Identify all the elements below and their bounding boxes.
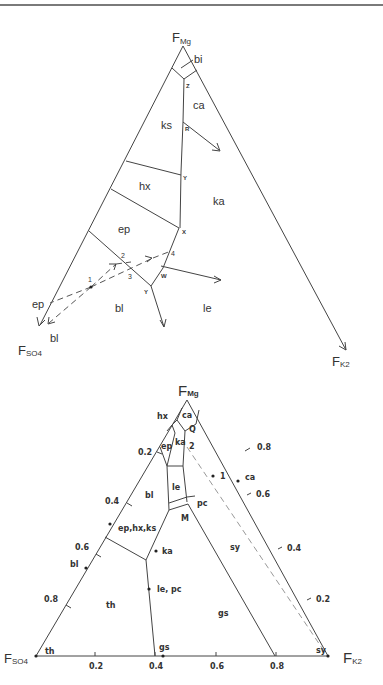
field-bl: bl xyxy=(115,302,124,314)
th-gs-boundary xyxy=(146,560,155,656)
tick-label-left-0.6: 0.6 xyxy=(75,543,90,552)
bi-leader xyxy=(181,60,193,68)
label-ep-hx-ks: ep,hx,ks xyxy=(118,524,156,533)
field-bi: bi xyxy=(194,53,203,65)
ca-dot xyxy=(236,479,239,482)
apex-dot-left xyxy=(34,654,37,657)
ep-bl-boundary xyxy=(89,231,151,286)
apex-dot-right xyxy=(326,654,329,657)
tick-right-0.6 xyxy=(247,493,251,495)
apex-fk2-bottom: FK2 xyxy=(343,649,363,666)
top-ternary-diagram xyxy=(37,46,346,350)
path-1-3-4 xyxy=(91,258,153,287)
tick-label-right-0.8: 0.8 xyxy=(257,443,272,452)
bi-boundary xyxy=(172,68,197,79)
apex-fso4-top: FSO4 xyxy=(18,343,43,358)
label-point-1: 1 xyxy=(220,472,226,481)
field-ka: ka xyxy=(213,195,226,207)
field-bl-outer: bl xyxy=(50,332,59,344)
central-boundary xyxy=(180,79,184,228)
point-z: Z xyxy=(186,83,190,89)
point-x: X xyxy=(182,229,186,235)
field-ca: ca xyxy=(182,411,192,420)
tick-left-0.4 xyxy=(127,503,132,506)
field-th: th xyxy=(106,601,116,610)
label-le-pc: le, pc xyxy=(157,585,182,594)
point-1: 1 xyxy=(88,276,92,283)
le-pc-boundary xyxy=(169,497,187,503)
gs-dot xyxy=(161,654,164,657)
pc-M-boundary xyxy=(169,504,188,510)
ep-th-boundary xyxy=(105,537,146,560)
tick-left-0.2 xyxy=(157,452,162,454)
tick-label-bottom-0.6: 0.6 xyxy=(210,662,225,671)
field-Q: Q xyxy=(189,425,196,434)
field-le: le xyxy=(203,302,212,314)
ka-dot xyxy=(154,549,157,552)
point-y-lower: Y xyxy=(144,289,148,295)
field-hx: hx xyxy=(139,180,151,192)
tick-label-bottom-0.2: 0.2 xyxy=(89,662,103,671)
field-ep: ep xyxy=(161,442,172,451)
point-y-upper: Y xyxy=(183,175,187,181)
phase-diagrams: FMg FSO4 FK2 bi ca ks hx ka ep bl le ep … xyxy=(0,0,383,685)
field-pc: pc xyxy=(197,499,208,508)
field-ep: ep xyxy=(118,223,130,235)
field-sy: sy xyxy=(230,543,241,552)
field-le: le xyxy=(172,483,181,492)
label-th-corner: th xyxy=(45,647,55,656)
ks-hx-boundary xyxy=(126,161,181,175)
label-sy-corner: sy xyxy=(316,646,327,655)
le-pc-dot xyxy=(147,587,150,590)
point-4: 4 xyxy=(171,250,175,257)
tick-label-left-0.4: 0.4 xyxy=(105,497,120,506)
path-1-bl xyxy=(49,287,91,323)
point-1-dot xyxy=(89,285,92,288)
path-1-2 xyxy=(91,264,116,287)
tick-label-left-0.8: 0.8 xyxy=(44,595,59,604)
point-r: R xyxy=(185,126,190,132)
tick-right-0.2 xyxy=(307,598,311,600)
tick-left-0.6 xyxy=(96,554,101,557)
tick-label-bottom-0.4: 0.4 xyxy=(149,662,164,671)
hx-boundary-2 xyxy=(172,425,175,433)
tick-label-right-0.4: 0.4 xyxy=(287,544,302,553)
M-gs-sy-boundary xyxy=(188,504,275,656)
label-gs: gs xyxy=(159,643,170,652)
path-1-ep xyxy=(50,287,91,303)
point-1-dot xyxy=(211,474,214,477)
point-w: W xyxy=(161,273,167,279)
tick-label-bottom-0.8: 0.8 xyxy=(270,662,285,671)
label-ca: ca xyxy=(245,473,255,482)
apex-fk2-top: FK2 xyxy=(332,354,350,369)
le-box-left xyxy=(167,466,169,510)
y-arrow xyxy=(151,286,164,327)
field-ks: ks xyxy=(161,119,173,131)
field-ka: ka xyxy=(175,438,186,447)
point-M: M xyxy=(181,514,189,523)
point-2: 2 xyxy=(121,252,125,259)
label-ka: ka xyxy=(162,547,173,556)
top-left-edge xyxy=(40,46,183,325)
ka-Q-boundary xyxy=(183,431,185,466)
apex-fso4-bottom: FSO4 xyxy=(4,651,29,666)
bl-dot xyxy=(84,566,87,569)
w-arrow xyxy=(161,266,221,280)
apex-fmg-bottom: FMg xyxy=(178,382,199,399)
label-bl: bl xyxy=(70,560,79,569)
tick-label-left-0.2: 0.2 xyxy=(138,448,152,457)
tick-label-right-0.6: 0.6 xyxy=(256,490,271,499)
apex-fmg-top: FMg xyxy=(172,30,191,46)
field-hx: hx xyxy=(157,412,169,421)
field-gs: gs xyxy=(218,609,229,618)
point-3: 3 xyxy=(128,273,132,280)
pc-leader xyxy=(187,496,195,497)
ep-hx-ks-dot xyxy=(108,522,111,525)
bottom-labels: FMg FSO4 FK2 ca hx Q ep ka 2 bl le pc M … xyxy=(4,382,363,671)
tick-right-0.8 xyxy=(245,448,250,451)
field-bl: bl xyxy=(145,491,154,500)
field-ep-outer: ep xyxy=(32,298,44,310)
path-2-3 xyxy=(116,262,131,264)
tick-label-right-0.2: 0.2 xyxy=(316,595,330,604)
tick-left-0.8 xyxy=(66,605,71,608)
